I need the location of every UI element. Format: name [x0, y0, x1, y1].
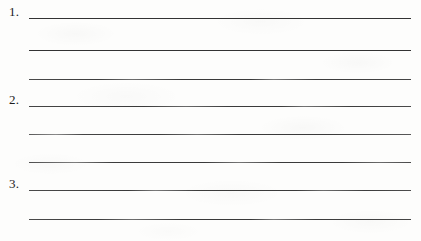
answer-blank-line-2[interactable]	[29, 50, 411, 51]
answer-blank-line-1[interactable]	[29, 18, 411, 19]
answer-blank-line-6[interactable]	[29, 162, 411, 163]
answer-blank-line-4[interactable]	[29, 106, 411, 107]
answer-blank-line-8[interactable]	[29, 219, 411, 220]
answer-blank-line-7[interactable]	[29, 190, 411, 191]
answer-blank-line-3[interactable]	[29, 79, 411, 80]
document-page: 1. 2. 3.	[0, 0, 421, 241]
paper-texture	[0, 0, 421, 241]
item-number-7: 3.	[9, 177, 19, 190]
item-number-4: 2.	[9, 93, 19, 106]
item-number-1: 1.	[9, 5, 19, 18]
answer-blank-line-5[interactable]	[29, 134, 411, 135]
